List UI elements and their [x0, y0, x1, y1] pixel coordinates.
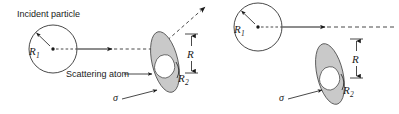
incident-particle-center-dot-right [256, 25, 259, 28]
scattering-atom-label: Scattering atom [66, 69, 129, 79]
scattering-atom-core-right [320, 67, 340, 90]
radius-r1-arrow-right [242, 11, 256, 24]
incident-particle-label: Incident particle [17, 9, 80, 19]
impact-radius-label-right: R [351, 53, 359, 65]
cross-section-sigma-leader-right [288, 90, 322, 99]
scattering-atom-core [155, 55, 175, 78]
scattering-figure: Incident particle R 1 [0, 0, 399, 114]
scattering-diagram-canvas: Incident particle R 1 [0, 0, 399, 114]
impact-radius-label: R [186, 48, 194, 60]
radius-r2-label: R [177, 72, 185, 84]
radius-r1-label: R [28, 45, 36, 57]
radius-r1-label-right: R [233, 23, 241, 35]
cross-section-sigma-label-right: σ [279, 92, 285, 103]
cross-section-sigma-label: σ [113, 92, 119, 103]
radius-r1-arrow [37, 33, 51, 46]
cross-section-sigma-leader [122, 90, 157, 99]
panel-left: Incident particle R 1 [17, 7, 205, 103]
radius-r2-label-right: R [342, 84, 350, 96]
radius-r1-subscript: 1 [36, 51, 40, 60]
radius-r2-subscript: 2 [185, 78, 189, 87]
incident-particle-center-dot [51, 47, 54, 50]
panel-right: R 1 R 2 σ [233, 3, 394, 107]
radius-r2-subscript-right: 2 [350, 90, 354, 99]
radius-r1-subscript-right: 1 [241, 29, 245, 38]
